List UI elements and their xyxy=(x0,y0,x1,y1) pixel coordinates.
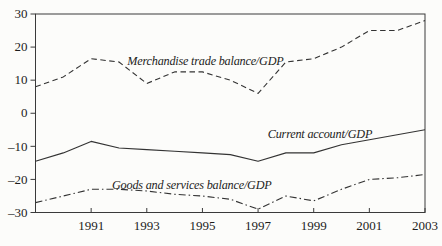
line-chart: 3020100–10–20–30199119931995199719992001… xyxy=(0,0,442,246)
series-label: Merchandise trade balance/GDP xyxy=(126,54,284,68)
y-tick-label: 0 xyxy=(21,105,28,120)
y-tick-label: 30 xyxy=(15,6,28,21)
series-label: Current account/GDP xyxy=(268,127,373,141)
x-tick-label: 2001 xyxy=(356,218,382,233)
y-tick-label: 20 xyxy=(15,39,28,54)
x-tick-label: 1993 xyxy=(134,218,160,233)
x-tick-label: 1991 xyxy=(78,218,104,233)
x-tick-label: 1995 xyxy=(189,218,215,233)
y-tick-label: –30 xyxy=(7,205,28,220)
y-tick-label: –10 xyxy=(7,139,28,154)
series-label: Goods and services balance/GDP xyxy=(112,178,272,192)
y-tick-label: 10 xyxy=(15,72,28,87)
y-tick-label: –20 xyxy=(7,172,28,187)
x-tick-label: 1997 xyxy=(245,218,272,233)
chart-figure: 3020100–10–20–30199119931995199719992001… xyxy=(0,0,442,246)
x-tick-label: 1999 xyxy=(301,218,327,233)
x-tick-label: 2003 xyxy=(412,218,438,233)
